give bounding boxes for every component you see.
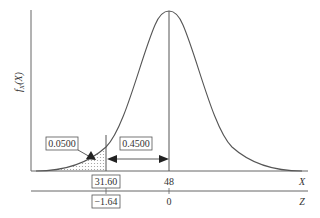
middle-arrowhead-right — [159, 155, 169, 163]
normal-distribution-chart: 0.0500 0.4500 31.60 48 X −1.64 0 Z fX(X) — [0, 0, 320, 218]
x-axis-label: X — [298, 176, 306, 187]
z-tick-crit-label: −1.64 — [94, 196, 117, 207]
x-tick-crit-label: 31.60 — [95, 176, 118, 187]
middle-area-label: 0.4500 — [122, 138, 150, 149]
z-tick-mean-label: 0 — [167, 196, 172, 207]
z-axis-label: Z — [299, 196, 305, 207]
svg-text:fX(X): fX(X) — [13, 71, 26, 92]
y-axis-label: fX(X) — [13, 71, 26, 92]
middle-arrowhead-left — [107, 155, 117, 163]
x-tick-mean-label: 48 — [164, 176, 174, 187]
tail-area-label: 0.0500 — [48, 138, 76, 149]
